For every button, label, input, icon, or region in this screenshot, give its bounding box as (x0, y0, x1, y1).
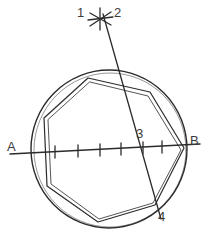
inscribed-heptagon (44, 78, 184, 222)
label-point-2: 2 (114, 6, 121, 19)
label-point-b: B (190, 134, 199, 147)
star-intersection-mark (88, 8, 113, 30)
label-point-3: 3 (136, 127, 143, 140)
construction-line-2-to-4 (103, 14, 161, 219)
figure-canvas (0, 0, 207, 233)
main-circle-second-pass (34, 73, 186, 227)
geometry-figure: 1 2 3 4 A B (0, 0, 207, 233)
label-point-1: 1 (77, 6, 84, 19)
label-point-a: A (7, 140, 16, 153)
line-segment-AB (10, 144, 200, 154)
label-point-4: 4 (158, 210, 165, 223)
